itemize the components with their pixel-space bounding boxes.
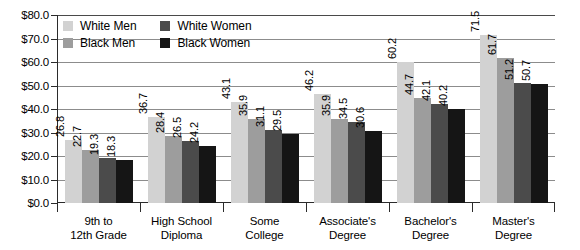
y-axis-tick-label: $40.0 (21, 103, 49, 115)
bar[interactable] (265, 130, 282, 203)
bar-value-label: 36.7 (138, 93, 149, 114)
bar-value-label: 35.9 (321, 95, 332, 116)
bar-value-label: 50.7 (521, 60, 532, 81)
y-axis-tick-label: $80.0 (21, 9, 49, 21)
y-axis-tick-label: $60.0 (21, 56, 49, 68)
bar[interactable] (514, 83, 531, 203)
bar-value-label: 61.7 (487, 34, 498, 55)
x-axis-labels: 9th to12th GradeHigh SchoolDiplomaSomeCo… (57, 214, 555, 248)
bar-slot: 44.7 (414, 15, 431, 203)
x-axis-category-line: Degree (306, 228, 389, 242)
legend-item-label: Black Men (80, 36, 135, 50)
bar[interactable] (331, 119, 348, 203)
y-axis-tick-label: $10.0 (21, 174, 49, 186)
bar[interactable] (165, 136, 182, 203)
bar-value-label: 71.5 (470, 11, 481, 32)
bar-value-label: 35.9 (238, 95, 249, 116)
bar[interactable] (431, 104, 448, 203)
bar[interactable] (99, 158, 116, 203)
bar-group-bars: 71.561.751.250.7 (472, 15, 555, 203)
bar-group: 60.244.742.140.2 (389, 15, 472, 203)
bar-value-label: 26.5 (172, 117, 183, 138)
bar[interactable] (231, 102, 248, 203)
bar-group-bars: 46.235.934.530.6 (306, 15, 389, 203)
bar-slot: 61.7 (497, 15, 514, 203)
bar[interactable] (82, 150, 99, 203)
x-axis-category-label: SomeCollege (223, 214, 306, 242)
bar-value-label: 26.8 (55, 116, 66, 137)
bar-slot: 50.7 (531, 15, 548, 203)
legend-item-label: Black Women (177, 36, 250, 50)
x-axis-ticks (57, 203, 555, 212)
bar-value-label: 43.1 (221, 78, 232, 99)
bar-value-label: 60.2 (387, 38, 398, 59)
bar-value-label: 34.5 (338, 98, 349, 119)
x-axis-category-line: 9th to (57, 214, 140, 228)
x-axis-category-line: Bachelor's (389, 214, 472, 228)
y-axis-tick-label: $20.0 (21, 150, 49, 162)
legend-item[interactable]: Black Women (160, 36, 251, 50)
bar-slot: 40.2 (448, 15, 465, 203)
legend-item-label: White Men (80, 19, 136, 33)
x-axis-category-label: High SchoolDiploma (140, 214, 223, 242)
bar[interactable] (182, 141, 199, 203)
x-axis-category-line: Degree (472, 228, 555, 242)
x-axis-tick (472, 203, 473, 212)
bar[interactable] (282, 134, 299, 203)
x-axis-tick (389, 203, 390, 212)
bar[interactable] (448, 109, 465, 203)
bar-slot: 51.2 (514, 15, 531, 203)
bar-group: 46.235.934.530.6 (306, 15, 389, 203)
y-axis-tick-label: $30.0 (21, 127, 49, 139)
y-axis-tick-label: $50.0 (21, 80, 49, 92)
bar[interactable] (116, 160, 133, 203)
x-axis-category-line: Master's (472, 214, 555, 228)
x-axis-tick (57, 203, 58, 212)
x-axis-category-line: Degree (389, 228, 472, 242)
bar-value-label: 46.2 (304, 70, 315, 91)
bar[interactable] (531, 84, 548, 203)
bar-group: 71.561.751.250.7 (472, 15, 555, 203)
bar[interactable] (480, 35, 497, 203)
x-axis-tick (223, 203, 224, 212)
legend-item[interactable]: Black Men (63, 36, 136, 50)
legend-item[interactable]: White Women (160, 19, 251, 33)
bar-value-label: 29.5 (272, 110, 283, 131)
bar[interactable] (414, 98, 431, 203)
legend-item[interactable]: White Men (63, 19, 136, 33)
x-axis-category-label: Associate'sDegree (306, 214, 389, 242)
bar[interactable] (65, 140, 82, 203)
x-axis-tick (306, 203, 307, 212)
y-axis-tick-label: $70.0 (21, 33, 49, 45)
x-axis-category-label: 9th to12th Grade (57, 214, 140, 242)
y-axis-tick-label: $0.0 (27, 197, 49, 209)
bar[interactable] (365, 131, 382, 203)
bar-value-label: 31.1 (255, 106, 266, 127)
bar-value-label: 40.2 (438, 85, 449, 106)
bar-value-label: 51.2 (504, 59, 515, 80)
bar-value-label: 18.3 (106, 136, 117, 157)
chart-legend: White MenWhite WomenBlack MenBlack Women (63, 19, 252, 50)
x-axis-tick (140, 203, 141, 212)
bar-chart: $0.0$10.0$20.0$30.0$40.0$50.0$60.0$70.0$… (0, 0, 580, 250)
legend-swatch-icon (63, 38, 73, 48)
x-axis-category-line: Some (223, 214, 306, 228)
x-axis-category-line: High School (140, 214, 223, 228)
x-axis-category-line: College (223, 228, 306, 242)
bar[interactable] (199, 146, 216, 203)
bar-slot: 30.6 (365, 15, 382, 203)
bar-value-label: 28.4 (155, 112, 166, 133)
x-axis-tick (554, 203, 555, 212)
legend-swatch-icon (63, 21, 73, 31)
legend-swatch-icon (160, 21, 170, 31)
legend-item-label: White Women (177, 19, 251, 33)
bar[interactable] (348, 122, 365, 203)
x-axis-category-line: Associate's (306, 214, 389, 228)
x-axis-category-label: Master'sDegree (472, 214, 555, 242)
bar-group-bars: 60.244.742.140.2 (389, 15, 472, 203)
bar-value-label: 24.2 (189, 122, 200, 143)
legend-swatch-icon (160, 38, 170, 48)
bar[interactable] (248, 119, 265, 203)
bar-value-label: 42.1 (421, 80, 432, 101)
x-axis-category-line: 12th Grade (57, 228, 140, 242)
